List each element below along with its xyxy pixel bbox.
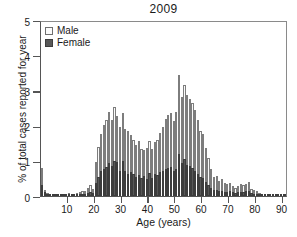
x-axis-tick — [282, 197, 283, 203]
legend-label-female: Female — [57, 37, 90, 48]
x-axis-tick-label: 20 — [88, 204, 99, 215]
x-axis-tick — [147, 197, 148, 203]
legend-item-male: Male — [45, 25, 90, 36]
x-axis-tick-label: 50 — [169, 204, 180, 215]
y-axis-title: % of total cases reported for year — [17, 21, 28, 197]
x-axis-tick — [228, 197, 229, 203]
y-axis-tick: 0 — [33, 197, 40, 198]
y-axis-title-container: % of total cases reported for year — [0, 21, 1, 197]
x-axis-tick-label: 30 — [115, 204, 126, 215]
y-axis-tick: 4 — [33, 56, 40, 57]
y-axis-tick: 3 — [33, 91, 40, 92]
y-axis-tick-label: 0 — [24, 192, 33, 203]
legend-swatch-male-icon — [45, 27, 53, 35]
y-axis-tick-label: 5 — [24, 16, 33, 27]
y-axis-tick-label: 3 — [24, 86, 33, 97]
chart-figure: 2009 % of total cases reported for year … — [0, 0, 297, 237]
bar-segment-male — [41, 168, 43, 186]
y-axis-tick-label: 1 — [24, 157, 33, 168]
x-axis-tick — [121, 197, 122, 203]
x-axis-tick — [174, 197, 175, 203]
legend-label-male: Male — [57, 25, 79, 36]
y-axis-tick: 5 — [33, 21, 40, 22]
chart-legend: Male Female — [45, 25, 90, 49]
y-axis-tick: 2 — [33, 127, 40, 128]
x-axis-tick-label: 60 — [196, 204, 207, 215]
x-axis-tick-label: 10 — [61, 204, 72, 215]
y-axis-tick-label: 2 — [24, 122, 33, 133]
bar-segment-female — [285, 194, 287, 196]
x-axis-tick — [94, 197, 95, 203]
x-axis-tick-label: 40 — [142, 204, 153, 215]
x-axis-tick — [67, 197, 68, 203]
y-axis-tick: 1 — [33, 162, 40, 163]
y-axis-tick-label: 4 — [24, 51, 33, 62]
x-axis-tick — [201, 197, 202, 203]
x-axis-title: Age (years) — [40, 216, 287, 228]
x-axis-tick-label: 70 — [222, 204, 233, 215]
legend-swatch-female-icon — [45, 39, 53, 47]
chart-title: 2009 — [40, 2, 287, 16]
x-axis-tick — [255, 197, 256, 203]
x-axis-tick-label: 90 — [276, 204, 287, 215]
legend-item-female: Female — [45, 37, 90, 48]
bar-stack — [285, 195, 287, 196]
x-axis-tick-label: 80 — [249, 204, 260, 215]
